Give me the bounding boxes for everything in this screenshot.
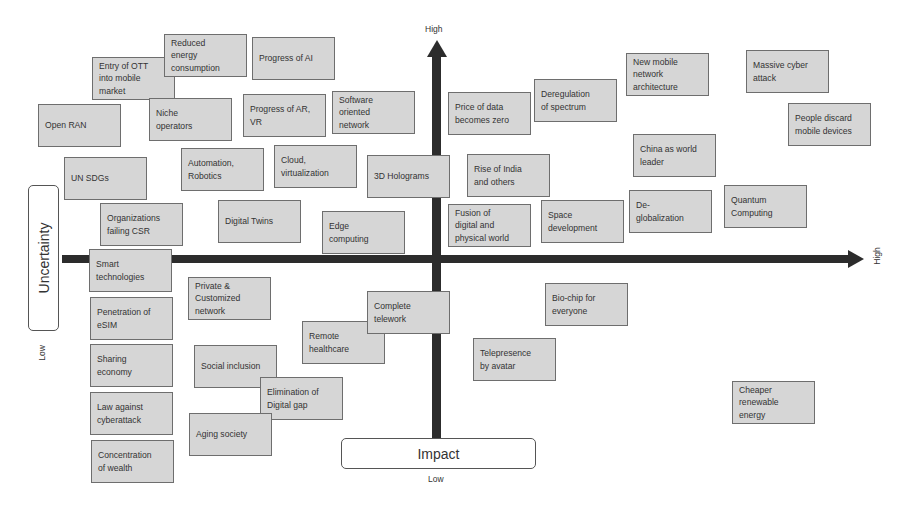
driver-box-line: technologies [96, 271, 144, 284]
driver-box: Price of databecomes zero [448, 92, 531, 135]
driver-box: Elimination ofDigital gap [260, 377, 343, 420]
driver-box: Rise of Indiaand others [467, 154, 550, 197]
impact-axis-arrow [432, 55, 441, 440]
driver-box-line: Customized [195, 292, 240, 305]
driver-box: People discardmobile devices [788, 103, 871, 146]
driver-box: De-globalization [629, 190, 712, 233]
impact-axis-title: Impact [417, 446, 459, 462]
driver-box: Progress of AR,VR [243, 94, 326, 137]
driver-box-line: economy [97, 366, 132, 379]
driver-box-line: Deregulation [541, 88, 590, 101]
driver-box: Organizationsfailing CSR [100, 203, 183, 246]
driver-box: Concentrationof wealth [91, 440, 174, 483]
driver-box-line: Law against [97, 401, 143, 414]
driver-box-line: Complete [374, 300, 411, 313]
driver-box-line: Organizations [107, 212, 160, 225]
driver-box-line: renewable [739, 396, 779, 409]
impact-axis-title-box: Impact [341, 438, 536, 469]
driver-box-line: VR [250, 116, 310, 129]
driver-box: Automation,Robotics [181, 148, 264, 191]
driver-box: Smarttechnologies [89, 249, 172, 292]
driver-box-line: cyberattack [97, 414, 143, 427]
impact-uncertainty-matrix: High Low High Low Uncertainty Impact Ent… [0, 0, 908, 506]
driver-box: China as worldleader [633, 134, 716, 177]
driver-box: Fusion ofdigital andphysical world [448, 204, 531, 247]
driver-box-line: Quantum [731, 194, 773, 207]
driver-box-line: oriented [339, 106, 373, 119]
driver-box-line: Digital gap [267, 399, 319, 412]
driver-box-line: Automation, [188, 157, 234, 170]
uncertainty-axis-arrow [62, 255, 852, 263]
driver-box-line: Rise of India [474, 163, 522, 176]
driver-box-line: eSIM [97, 319, 151, 332]
driver-box-line: Edge [329, 220, 369, 233]
driver-box-line: virtualization [281, 167, 329, 180]
driver-box: Edgecomputing [322, 211, 405, 254]
driver-box-line: architecture [633, 81, 678, 94]
driver-box-line: Niche [156, 107, 192, 120]
driver-box: Completetelework [367, 291, 450, 334]
driver-box-line: Penetration of [97, 306, 151, 319]
driver-box-line: Open RAN [45, 119, 87, 132]
driver-box-line: market [99, 85, 148, 98]
driver-box: Digital Twins [218, 200, 301, 243]
driver-box-line: mobile devices [795, 125, 852, 138]
driver-box-line: failing CSR [107, 225, 160, 238]
driver-box-line: by avatar [480, 360, 531, 373]
driver-box-line: Fusion of [455, 207, 509, 220]
driver-box-line: becomes zero [455, 114, 509, 127]
driver-box: Open RAN [38, 104, 121, 147]
driver-box-line: Massive cyber [753, 59, 808, 72]
driver-box-line: consumption [171, 62, 220, 75]
driver-box: Bio-chip foreveryone [545, 283, 628, 326]
driver-box-line: Bio-chip for [552, 292, 595, 305]
driver-box-line: Reduced [171, 37, 220, 50]
driver-box-line: leader [640, 156, 697, 169]
driver-box-line: development [548, 222, 597, 235]
driver-box: 3D Holograms [367, 155, 450, 198]
uncertainty-arrowhead-icon [848, 250, 864, 268]
impact-arrowhead-icon [427, 40, 447, 57]
driver-box-line: Social inclusion [201, 360, 260, 373]
driver-box-line: Digital Twins [225, 215, 273, 228]
driver-box-line: UN SDGs [71, 172, 109, 185]
driver-box-line: globalization [636, 212, 684, 225]
uncertainty-axis-title: Uncertainty [36, 223, 52, 294]
uncertainty-high-label: High [872, 247, 882, 264]
driver-box-line: Space [548, 209, 597, 222]
driver-box-line: healthcare [309, 343, 349, 356]
driver-box-line: China as world [640, 143, 697, 156]
driver-box-line: network [195, 305, 240, 318]
driver-box-line: network [339, 119, 373, 132]
driver-box: Cheaperrenewableenergy [732, 381, 815, 424]
driver-box: Nicheoperators [149, 98, 232, 141]
driver-box-line: telework [374, 313, 411, 326]
driver-box: Private &Customizednetwork [188, 277, 271, 320]
driver-box-line: energy [171, 49, 220, 62]
driver-box-line: attack [753, 72, 808, 85]
driver-box-line: operators [156, 120, 192, 133]
driver-box-line: 3D Holograms [374, 170, 429, 183]
driver-box-line: everyone [552, 305, 595, 318]
driver-box: Progress of AI [252, 37, 335, 80]
impact-high-label: High [425, 24, 442, 34]
driver-box-line: Price of data [455, 101, 509, 114]
driver-box-line: Entry of OTT [99, 60, 148, 73]
driver-box-line: Concentration [98, 449, 152, 462]
driver-box-line: Private & [195, 280, 240, 293]
driver-box: Spacedevelopment [541, 200, 624, 243]
driver-box-line: into mobile [99, 72, 148, 85]
driver-box-line: Aging society [196, 428, 247, 441]
driver-box-line: Sharing [97, 353, 132, 366]
driver-box-line: Computing [731, 207, 773, 220]
driver-box-line: Elimination of [267, 386, 319, 399]
uncertainty-low-label: Low [37, 345, 47, 361]
driver-box: Telepresenceby avatar [473, 338, 556, 381]
driver-box-line: De- [636, 199, 684, 212]
driver-box-line: People discard [795, 112, 852, 125]
driver-box-line: Cheaper [739, 384, 779, 397]
driver-box-line: Progress of AI [259, 52, 313, 65]
driver-box-line: physical world [455, 232, 509, 245]
driver-box-line: Remote [309, 330, 349, 343]
driver-box-line: digital and [455, 219, 509, 232]
